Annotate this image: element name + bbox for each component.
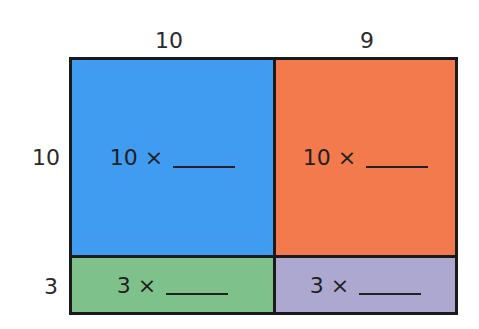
answer-blank[interactable] [166, 275, 228, 295]
answer-blank[interactable] [359, 275, 421, 295]
top-label-tens: 10 [155, 28, 183, 53]
cell-expression: 10 × [303, 145, 356, 170]
cell-10x10: 10 × [72, 60, 276, 258]
side-label-ones: 3 [44, 274, 58, 299]
side-label-tens: 10 [32, 145, 60, 170]
cell-expression: 3 × [310, 273, 349, 298]
cell-expression: 3 × [117, 273, 156, 298]
area-model: 10 × 10 × 3 × 3 × [69, 57, 458, 315]
answer-blank[interactable] [366, 148, 428, 168]
cell-3x10: 3 × [72, 258, 276, 312]
cell-10x9: 10 × [276, 60, 455, 258]
cell-3x9: 3 × [276, 258, 455, 312]
top-label-ones: 9 [360, 28, 374, 53]
cell-expression: 10 × [110, 145, 163, 170]
answer-blank[interactable] [173, 148, 235, 168]
